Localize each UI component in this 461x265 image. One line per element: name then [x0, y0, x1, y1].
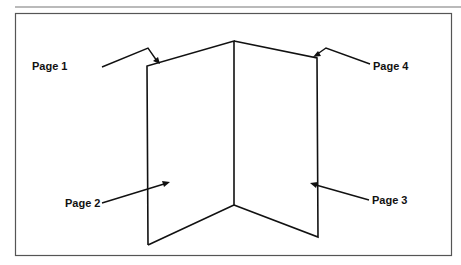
booklet-diagram	[0, 0, 461, 265]
left-leaf	[147, 41, 234, 245]
diagram-canvas: Page 1 Page 2 Page 3 Page 4	[0, 0, 461, 265]
page-2-arrowhead-icon	[162, 181, 170, 187]
right-leaf	[234, 41, 318, 237]
label-page-2: Page 2	[65, 197, 100, 209]
page-3-arrowhead-icon	[310, 182, 318, 188]
label-page-3: Page 3	[372, 194, 407, 206]
page-3-leader	[316, 185, 369, 200]
page-4-leader	[316, 48, 370, 64]
page-2-leader	[102, 184, 164, 203]
label-page-1: Page 1	[32, 60, 67, 72]
label-page-4: Page 4	[373, 60, 408, 72]
page-1-leader	[102, 48, 157, 67]
